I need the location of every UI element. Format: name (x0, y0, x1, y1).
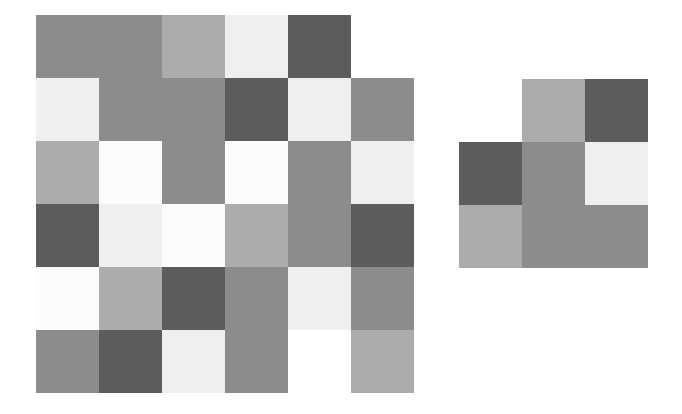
left-grid-cell-r3-c1 (99, 204, 162, 267)
right-grid-cell-r2-c1 (522, 205, 585, 268)
left-grid-cell-r2-c0 (36, 141, 99, 204)
left-grid-cell-r5-c4 (288, 330, 351, 393)
left-grid-cell-r3-c5 (351, 204, 414, 267)
left-grid-cell-r2-c5 (351, 141, 414, 204)
left-grid-cell-r5-c5 (351, 330, 414, 393)
left-grid-cell-r1-c1 (99, 78, 162, 141)
left-grid-cell-r3-c0 (36, 204, 99, 267)
left-grid-cell-r3-c2 (162, 204, 225, 267)
left-grid-cell-r2-c1 (99, 141, 162, 204)
right-grid-cell-r2-c2 (585, 205, 648, 268)
left-grid-cell-r1-c3 (225, 78, 288, 141)
left-grid-cell-r1-c2 (162, 78, 225, 141)
left-grid-cell-r2-c4 (288, 141, 351, 204)
left-grid-cell-r2-c2 (162, 141, 225, 204)
right-grid-cell-r0-c2 (585, 79, 648, 142)
left-grid-cell-r5-c2 (162, 330, 225, 393)
right-grid-cell-r1-c0 (459, 142, 522, 205)
left-grid-cell-r5-c3 (225, 330, 288, 393)
left-grid-cell-r1-c0 (36, 78, 99, 141)
right-grid-cell-r1-c1 (522, 142, 585, 205)
left-grid-cell-r0-c5 (351, 15, 414, 78)
left-grid-cell-r2-c3 (225, 141, 288, 204)
left-grid-cell-r0-c2 (162, 15, 225, 78)
right-grid-cell-r1-c2 (585, 142, 648, 205)
right-grid-cell-r0-c0 (459, 79, 522, 142)
left-grid-cell-r0-c1 (99, 15, 162, 78)
left-grid-cell-r4-c2 (162, 267, 225, 330)
left-grid (36, 15, 414, 393)
left-grid-cell-r0-c3 (225, 15, 288, 78)
left-grid-cell-r3-c3 (225, 204, 288, 267)
left-grid-cell-r4-c5 (351, 267, 414, 330)
left-grid-cell-r5-c1 (99, 330, 162, 393)
right-grid-cell-r2-c0 (459, 205, 522, 268)
right-grid-cell-r0-c1 (522, 79, 585, 142)
left-grid-cell-r3-c4 (288, 204, 351, 267)
left-grid-cell-r1-c4 (288, 78, 351, 141)
left-grid-cell-r0-c4 (288, 15, 351, 78)
right-grid (459, 79, 648, 268)
left-grid-cell-r1-c5 (351, 78, 414, 141)
left-grid-cell-r4-c3 (225, 267, 288, 330)
left-grid-cell-r5-c0 (36, 330, 99, 393)
left-grid-cell-r4-c4 (288, 267, 351, 330)
left-grid-cell-r4-c0 (36, 267, 99, 330)
left-grid-cell-r4-c1 (99, 267, 162, 330)
left-grid-cell-r0-c0 (36, 15, 99, 78)
